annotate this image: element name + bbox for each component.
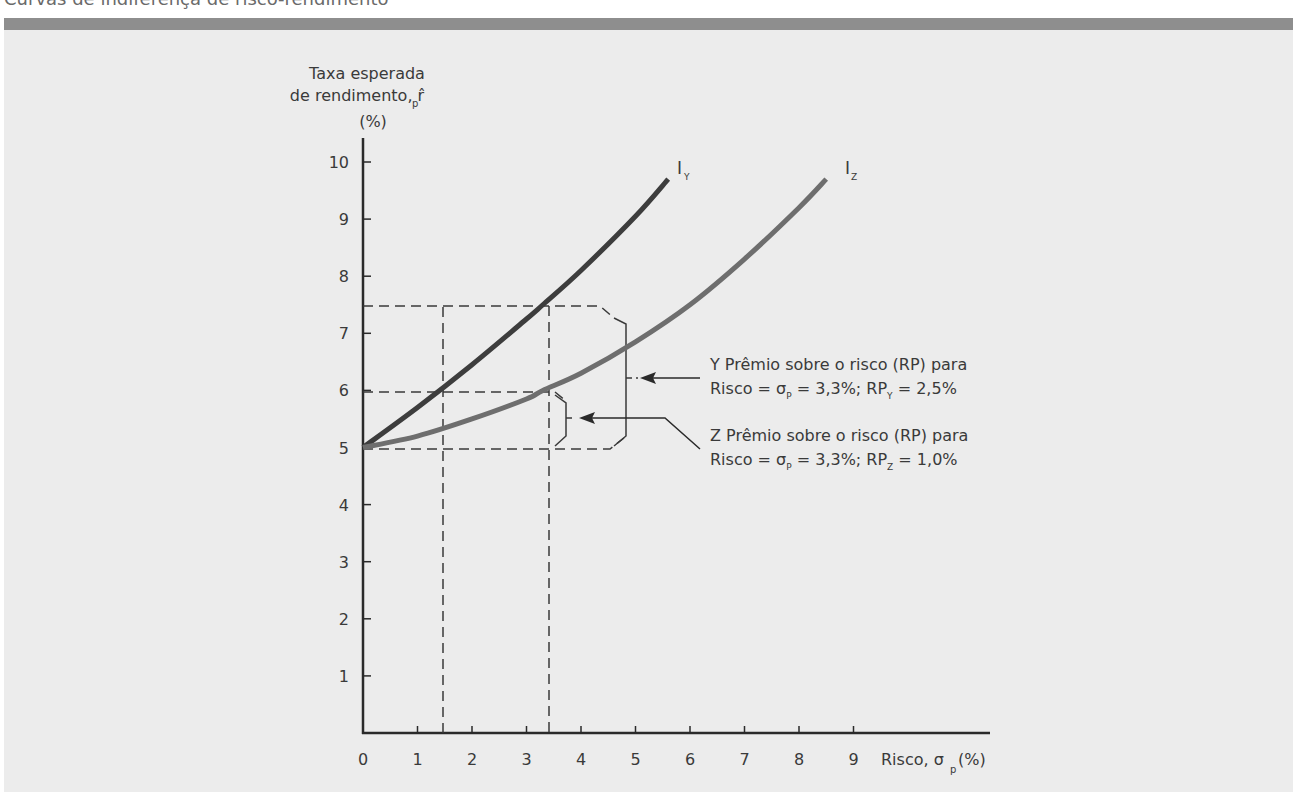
x-tick-label: 3 xyxy=(521,750,531,769)
y-tick-label: 4 xyxy=(339,496,349,515)
svg-text:Risco = σP = 3,3%; RPZ = 1,0%: Risco = σP = 3,3%; RPZ = 1,0% xyxy=(710,450,958,472)
x-tick-label: 8 xyxy=(794,750,804,769)
y-tick-label: 3 xyxy=(339,553,349,572)
y-tick-label: 8 xyxy=(339,267,349,286)
x-tick-label: 1 xyxy=(412,750,422,769)
curve-iz xyxy=(363,179,826,447)
x-tick-label: 2 xyxy=(467,750,477,769)
indifference-curves xyxy=(363,179,826,447)
svg-text:p: p xyxy=(950,764,956,775)
y-tick-label: 9 xyxy=(339,210,349,229)
svg-text:Y: Y xyxy=(683,172,690,182)
svg-text:(%): (%) xyxy=(359,112,387,131)
y-tick-label: 5 xyxy=(339,439,349,458)
y-tick-label: 6 xyxy=(339,381,349,400)
svg-text:Y Prêmio sobre o risco (RP) pa: Y Prêmio sobre o risco (RP) para xyxy=(709,355,967,374)
svg-text:Z Prêmio sobre o risco (RP) pa: Z Prêmio sobre o risco (RP) para xyxy=(710,426,968,445)
y-tick-label: 1 xyxy=(339,667,349,686)
y-tick-label: 10 xyxy=(329,153,349,172)
svg-text:de rendimento, r̂: de rendimento, r̂ xyxy=(290,86,425,105)
x-tick-label: 9 xyxy=(848,750,858,769)
svg-text:p: p xyxy=(412,98,418,109)
y-tick-label: 7 xyxy=(339,324,349,343)
curve-label-iz: I Z xyxy=(845,158,857,182)
svg-text:Risco = σP = 3,3%; RPY = 2,5%: Risco = σP = 3,3%; RPY = 2,5% xyxy=(710,379,957,401)
x-tick-label: 4 xyxy=(576,750,586,769)
chart: Taxa esperada de rendimento, r̂ p (%) 12… xyxy=(0,0,1298,796)
svg-text:I: I xyxy=(845,158,850,178)
x-tick-label: 5 xyxy=(630,750,640,769)
svg-text:(%): (%) xyxy=(958,750,986,769)
y-axis-ticks: 12345678910 xyxy=(329,153,371,686)
y-tick-label: 2 xyxy=(339,610,349,629)
x-tick-label: 0 xyxy=(358,750,368,769)
annotation-y: Y Prêmio sobre o risco (RP) para Risco =… xyxy=(709,355,967,401)
x-tick-label: 7 xyxy=(739,750,749,769)
x-tick-label: 6 xyxy=(685,750,695,769)
svg-text:Risco, σ: Risco, σ xyxy=(881,750,944,769)
curve-iy xyxy=(363,179,668,447)
svg-text:Taxa esperada: Taxa esperada xyxy=(308,64,425,83)
svg-text:Z: Z xyxy=(851,172,857,182)
annotation-z: Z Prêmio sobre o risco (RP) para Risco =… xyxy=(710,426,968,472)
svg-text:I: I xyxy=(677,158,682,178)
y-axis-label: Taxa esperada de rendimento, r̂ p (%) xyxy=(290,64,425,131)
x-axis-label: Risco, σ p (%) xyxy=(881,750,986,775)
curve-label-iy: I Y xyxy=(677,158,690,182)
annotation-arrows xyxy=(579,372,700,449)
